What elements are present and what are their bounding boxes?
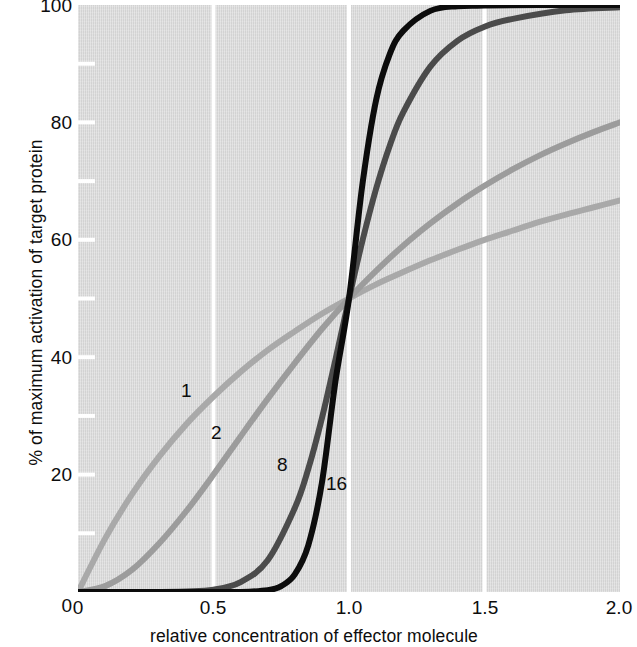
curve-label-n8: 8 — [277, 455, 288, 474]
x-tick-2p0: 2.0 — [589, 598, 637, 617]
plot-canvas — [78, 5, 620, 592]
curve-label-n1: 1 — [181, 381, 192, 400]
curve-label-n2: 2 — [211, 423, 222, 442]
y-tick-100: 100 — [12, 0, 72, 15]
plot-area — [78, 5, 620, 592]
x-tick-0: 0 — [48, 598, 108, 617]
y-axis-title: % of maximum activation of target protei… — [26, 23, 47, 583]
x-tick-0p5: 0.5 — [183, 598, 243, 617]
y-axis-tick-marks — [78, 64, 95, 534]
x-axis-title: relative concentration of effector molec… — [0, 626, 628, 647]
curve-label-n16: 16 — [326, 474, 347, 493]
x-tick-1p5: 1.5 — [455, 598, 515, 617]
x-tick-1p0: 1.0 — [319, 598, 379, 617]
